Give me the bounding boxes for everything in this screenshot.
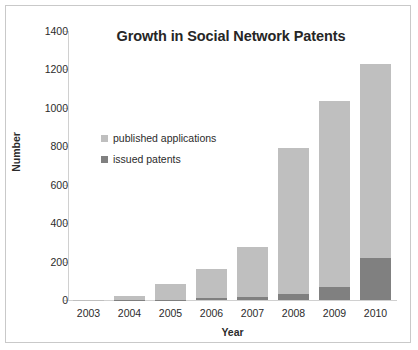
bar-2004[interactable] [114, 296, 145, 300]
x-axis-title: Year [68, 326, 397, 338]
y-tick-label: 200 [22, 256, 68, 268]
legend-item-2[interactable]: issued patents [101, 153, 216, 165]
bar-segment-published-2006[interactable] [196, 269, 227, 298]
bar-segment-published-2007[interactable] [237, 247, 268, 297]
y-tick-label: 1000 [22, 102, 68, 114]
legend-swatch-icon [101, 135, 108, 142]
bar-segment-issued-2008[interactable] [278, 294, 309, 300]
bar-2008[interactable] [278, 148, 309, 300]
legend-label: issued patents [113, 153, 181, 165]
x-tick-label-2004: 2004 [109, 307, 151, 319]
y-tick-label: 800 [22, 140, 68, 152]
bar-2006[interactable] [196, 269, 227, 300]
legend-label: published applications [113, 132, 216, 144]
x-tick-label-2008: 2008 [273, 307, 315, 319]
x-axis-line [68, 300, 397, 301]
bar-segment-issued-2007[interactable] [237, 297, 268, 300]
y-tick-label: 1400 [22, 25, 68, 37]
bar-segment-issued-2006[interactable] [196, 298, 227, 300]
bar-segment-issued-2009[interactable] [319, 287, 350, 300]
y-axis-title: Number [10, 122, 22, 182]
legend-swatch-icon [101, 156, 108, 163]
bar-segment-issued-2010[interactable] [360, 258, 391, 300]
bar-2009[interactable] [319, 101, 350, 300]
bar-2007[interactable] [237, 247, 268, 300]
bar-segment-published-2008[interactable] [278, 148, 309, 293]
chart-legend: published applicationsissued patents [101, 132, 216, 174]
x-tick-label-2006: 2006 [191, 307, 233, 319]
bar-segment-published-2005[interactable] [155, 284, 186, 299]
y-tick-label: 400 [22, 217, 68, 229]
x-tick-label-2009: 2009 [314, 307, 356, 319]
x-tick-label-2010: 2010 [355, 307, 397, 319]
bar-segment-published-2009[interactable] [319, 101, 350, 286]
y-tick-label: 0 [22, 294, 68, 306]
legend-item-1[interactable]: published applications [101, 132, 216, 144]
chart-container: Growth in Social Network Patents 0200400… [5, 5, 411, 343]
bar-segment-published-2010[interactable] [360, 64, 391, 258]
y-tick-label: 1200 [22, 63, 68, 75]
bar-2005[interactable] [155, 284, 186, 300]
x-tick-label-2005: 2005 [150, 307, 192, 319]
x-tick-label-2003: 2003 [68, 307, 110, 319]
bar-2010[interactable] [360, 64, 391, 300]
x-tick-label-2007: 2007 [232, 307, 274, 319]
y-tick-label: 600 [22, 179, 68, 191]
